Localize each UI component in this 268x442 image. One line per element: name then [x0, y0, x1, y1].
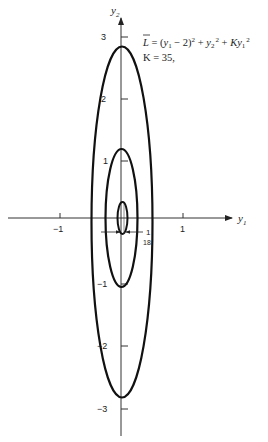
y2-axis-label: y2: [110, 4, 120, 19]
annotation-denominator: 18: [143, 239, 151, 246]
contour-plot: −1 1 3 2 1 −1 −2 −3 y1 y2 1 18 L = (y1 −…: [0, 0, 268, 442]
equation: L = (y1 − 2)2 + y22 + Ky12 K = 35,: [142, 35, 250, 63]
y-tick-label: 3: [101, 32, 106, 42]
y-tick-label: 1: [103, 156, 108, 166]
y-tick-label: −1: [97, 279, 107, 289]
y1-axis-label: y1: [237, 212, 246, 227]
x-tick-label: −1: [53, 224, 63, 234]
y-tick-label: −3: [97, 404, 107, 414]
annotation-numerator: 1: [146, 228, 151, 237]
svg-text:L = (y1 − 2)2 + y22 + Ky: L = (y1 − 2)2 + y22 + Ky12: [142, 36, 250, 50]
x-tick-label: 1: [180, 224, 185, 234]
k-value: K = 35,: [143, 52, 175, 63]
